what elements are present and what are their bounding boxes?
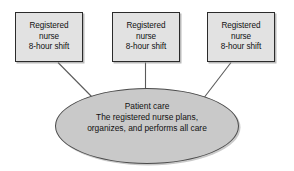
- hub-line-1: Patient care: [125, 101, 170, 112]
- hub-line-2: The registered nurse plans,: [96, 112, 198, 123]
- node-registered-nurse-3: Registered nurse 8-hour shift: [207, 12, 275, 62]
- node-2-line-1: Registered: [126, 21, 165, 31]
- node-2-line-2: nurse: [136, 32, 156, 42]
- node-1-line-3: 8-hour shift: [29, 42, 69, 52]
- connector-right: [203, 63, 231, 100]
- node-3-line-1: Registered: [221, 21, 260, 31]
- node-registered-nurse-1: Registered nurse 8-hour shift: [15, 12, 83, 62]
- node-3-line-2: nurse: [231, 32, 251, 42]
- node-2-line-3: 8-hour shift: [126, 42, 166, 52]
- node-1-line-2: nurse: [39, 32, 59, 42]
- node-1-line-1: Registered: [29, 21, 68, 31]
- connector-left: [58, 63, 94, 100]
- hub-line-3: organizes, and performs all care: [87, 123, 207, 134]
- node-registered-nurse-2: Registered nurse 8-hour shift: [112, 12, 180, 62]
- diagram-canvas: Registered nurse 8-hour shift Registered…: [0, 0, 294, 171]
- node-3-line-3: 8-hour shift: [221, 42, 261, 52]
- hub-patient-care: Patient care The registered nurse plans,…: [55, 88, 239, 164]
